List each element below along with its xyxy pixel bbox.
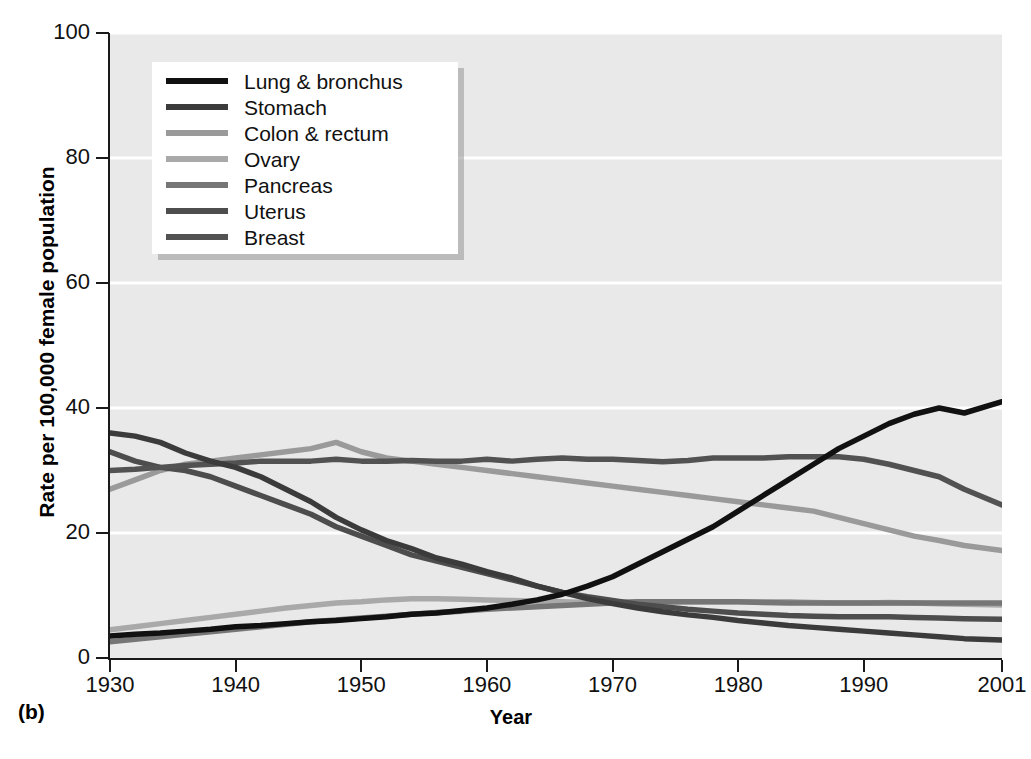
legend-swatch-icon bbox=[166, 182, 228, 188]
y-tick bbox=[96, 157, 109, 159]
x-tick bbox=[612, 660, 614, 672]
y-tick bbox=[96, 32, 109, 34]
y-tick bbox=[96, 532, 109, 534]
x-tick bbox=[235, 660, 237, 672]
x-tick-label: 2001 bbox=[942, 672, 1031, 698]
chart-legend: Lung & bronchusStomachColon & rectumOvar… bbox=[152, 62, 458, 254]
legend-swatch-icon bbox=[166, 156, 228, 162]
legend-label: Stomach bbox=[244, 97, 327, 118]
legend-item-stomach: Stomach bbox=[166, 94, 327, 120]
x-tick bbox=[360, 660, 362, 672]
x-tick bbox=[109, 660, 111, 672]
legend-label: Uterus bbox=[244, 201, 306, 222]
x-tick-label: 1960 bbox=[427, 672, 547, 698]
legend-item-ovary: Ovary bbox=[166, 146, 300, 172]
x-axis-title: Year bbox=[0, 706, 1022, 729]
x-tick-label: 1990 bbox=[804, 672, 924, 698]
legend-swatch-icon bbox=[166, 104, 228, 110]
legend-swatch-icon bbox=[166, 130, 228, 136]
legend-item-colon-rectum: Colon & rectum bbox=[166, 120, 389, 146]
x-tick bbox=[863, 660, 865, 672]
series-line-pancreas bbox=[110, 602, 1002, 642]
legend-label: Pancreas bbox=[244, 175, 333, 196]
y-tick bbox=[96, 657, 109, 659]
x-tick-label: 1950 bbox=[301, 672, 421, 698]
legend-item-pancreas: Pancreas bbox=[166, 172, 333, 198]
x-tick bbox=[737, 660, 739, 672]
y-tick-label: 0 bbox=[0, 644, 90, 670]
x-tick bbox=[486, 660, 488, 672]
legend-label: Ovary bbox=[244, 149, 300, 170]
legend-swatch-icon bbox=[166, 78, 228, 84]
y-axis-title: Rate per 100,000 female population bbox=[35, 42, 59, 642]
x-tick bbox=[1001, 660, 1003, 672]
panel-label: (b) bbox=[18, 700, 45, 724]
x-tick-label: 1940 bbox=[176, 672, 296, 698]
y-axis-line bbox=[108, 33, 110, 660]
y-tick bbox=[96, 282, 109, 284]
y-tick bbox=[96, 407, 109, 409]
legend-label: Lung & bronchus bbox=[244, 71, 403, 92]
x-tick-label: 1930 bbox=[50, 672, 170, 698]
legend-item-uterus: Uterus bbox=[166, 198, 306, 224]
legend-swatch-icon bbox=[166, 234, 228, 240]
legend-label: Breast bbox=[244, 227, 305, 248]
series-lines bbox=[110, 402, 1002, 642]
legend-item-lung-bronchus: Lung & bronchus bbox=[166, 68, 403, 94]
x-tick-label: 1980 bbox=[678, 672, 798, 698]
legend-swatch-icon bbox=[166, 208, 228, 214]
x-tick-label: 1970 bbox=[553, 672, 673, 698]
legend-item-breast: Breast bbox=[166, 224, 305, 250]
x-axis-line bbox=[108, 658, 1002, 660]
legend-label: Colon & rectum bbox=[244, 123, 389, 144]
